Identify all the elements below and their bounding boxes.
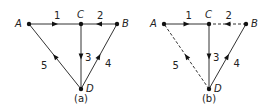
edge-4-arrow-icon — [95, 54, 100, 60]
edge-label-1: 1 — [186, 10, 192, 21]
diagram-caption: (b) — [202, 93, 216, 104]
edge-3-arrow-icon — [79, 54, 84, 60]
node-label-B: B — [122, 18, 129, 29]
diagram-a: 12345ACBD(a) — [14, 9, 129, 104]
edge-2-arrow-icon — [96, 22, 102, 27]
node-A — [27, 22, 31, 26]
edge-2-arrow-icon — [225, 22, 231, 27]
edge-label-3: 3 — [213, 52, 219, 63]
node-B — [115, 22, 119, 26]
diagram-b: 12345ACBD(b) — [149, 9, 258, 104]
edge-4-arrow-icon — [224, 54, 229, 60]
node-A — [162, 22, 166, 26]
edge-label-2: 2 — [226, 10, 232, 21]
node-label-C: C — [77, 9, 84, 20]
graph-diagrams: 12345ACBD(a)12345ACBD(b) — [0, 0, 263, 108]
edge-1-arrow-icon — [52, 22, 58, 27]
diagram-caption: (a) — [74, 93, 88, 104]
node-C — [79, 22, 83, 26]
edge-label-4: 4 — [234, 58, 240, 69]
node-C — [207, 22, 211, 26]
node-label-A: A — [149, 18, 157, 29]
edge-label-1: 1 — [54, 10, 60, 21]
edge-1-arrow-icon — [184, 22, 190, 27]
edge-5-arrow-icon — [185, 54, 190, 60]
edge-label-4: 4 — [105, 58, 111, 69]
edge-label-5: 5 — [173, 60, 179, 71]
node-B — [244, 22, 248, 26]
edge-label-2: 2 — [97, 10, 103, 21]
node-D — [207, 87, 211, 91]
edge-label-3: 3 — [85, 52, 91, 63]
edge-label-5: 5 — [41, 60, 47, 71]
node-label-C: C — [205, 9, 212, 20]
edge-3-arrow-icon — [207, 54, 212, 60]
node-label-A: A — [14, 18, 22, 29]
node-label-B: B — [251, 18, 258, 29]
node-D — [79, 87, 83, 91]
